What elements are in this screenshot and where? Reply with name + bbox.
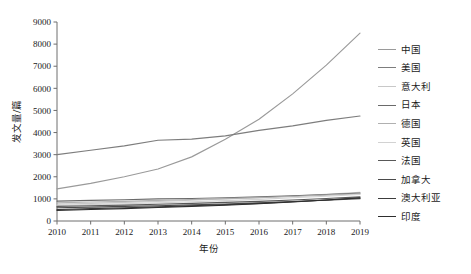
y-tick-label: 4000: [33, 128, 52, 138]
chart-legend: 中国美国意大利日本德国英国法国加拿大澳大利亚印度: [378, 40, 470, 226]
legend-item-label: 加拿大: [401, 175, 431, 185]
y-tick-label: 0: [47, 216, 52, 226]
y-tick-label: 2000: [33, 172, 52, 182]
chart-figure: 0100020003000400050006000700080009000201…: [0, 0, 471, 274]
legend-item[interactable]: 日本: [378, 96, 470, 115]
legend-line-swatch: [378, 49, 396, 50]
y-tick-label: 1000: [33, 194, 52, 204]
legend-item-label: 英国: [401, 138, 421, 148]
legend-item-label: 澳大利亚: [401, 193, 441, 203]
x-tick-label: 2012: [115, 227, 133, 237]
axes-group: [54, 22, 361, 225]
legend-line-swatch: [378, 142, 396, 143]
x-tick-label: 2013: [149, 227, 168, 237]
legend-item-label: 美国: [401, 63, 421, 73]
legend-line-swatch: [378, 216, 396, 217]
legend-line-swatch: [378, 160, 396, 161]
legend-item-label: 法国: [401, 156, 421, 166]
legend-item[interactable]: 英国: [378, 133, 470, 152]
y-tick-label: 9000: [33, 17, 52, 27]
legend-line-swatch: [378, 198, 396, 199]
legend-item-label: 印度: [401, 212, 421, 222]
legend-item[interactable]: 中国: [378, 40, 470, 59]
y-tick-label: 6000: [33, 84, 52, 94]
legend-item[interactable]: 德国: [378, 114, 470, 133]
y-tick-label: 5000: [33, 106, 52, 116]
legend-item-label: 德国: [401, 119, 421, 129]
legend-item[interactable]: 加拿大: [378, 170, 470, 189]
legend-item-label: 意大利: [401, 82, 431, 92]
axis-spines: [57, 22, 360, 221]
x-tick-label: 2011: [82, 227, 100, 237]
x-tick-label: 2018: [317, 227, 336, 237]
legend-line-swatch: [378, 86, 396, 87]
legend-line-swatch: [378, 123, 396, 124]
x-tick-label: 2015: [216, 227, 235, 237]
series-group: [57, 33, 360, 210]
legend-item[interactable]: 印度: [378, 207, 470, 226]
x-tick-label: 2017: [284, 227, 303, 237]
y-tick-label: 8000: [33, 39, 52, 49]
legend-item-label: 日本: [401, 100, 421, 110]
legend-item-label: 中国: [401, 45, 421, 55]
series-line-1: [57, 116, 360, 155]
legend-item[interactable]: 法国: [378, 152, 470, 171]
x-tick-label: 2010: [48, 227, 67, 237]
axis-labels-group: 0100020003000400050006000700080009000201…: [11, 17, 370, 254]
legend-line-swatch: [378, 179, 396, 180]
x-tick-label: 2019: [351, 227, 370, 237]
x-tick-label: 2014: [183, 227, 202, 237]
legend-line-swatch: [378, 67, 396, 68]
legend-item[interactable]: 澳大利亚: [378, 189, 470, 208]
x-tick-label: 2016: [250, 227, 269, 237]
y-tick-label: 7000: [33, 61, 52, 71]
legend-item[interactable]: 美国: [378, 59, 470, 78]
x-axis-title: 年份: [199, 243, 219, 254]
y-tick-label: 3000: [33, 150, 52, 160]
series-line-0: [57, 33, 360, 189]
legend-line-swatch: [378, 105, 396, 106]
y-axis-title: 发文量/篇: [11, 100, 22, 143]
legend-item[interactable]: 意大利: [378, 77, 470, 96]
